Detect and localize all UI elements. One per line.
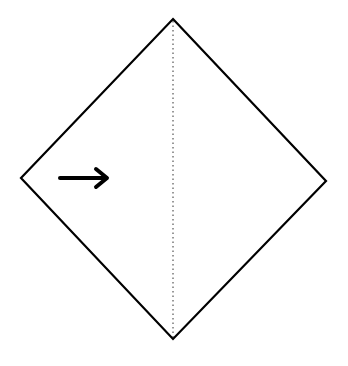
origami-diagram [0,0,348,366]
